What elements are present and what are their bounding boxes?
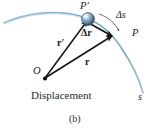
vector-r xyxy=(45,36,112,78)
label-point-p: P xyxy=(132,28,138,39)
particle-highlight xyxy=(83,15,87,18)
label-point-p-prime: P′ xyxy=(80,1,89,12)
label-arc-length-delta-s: Δs xyxy=(116,10,126,20)
label-vector-r: r xyxy=(85,57,89,67)
figure-label-b: (b) xyxy=(69,114,81,124)
origin-point-dot xyxy=(43,76,47,80)
label-vector-r-prime: r′ xyxy=(57,38,64,48)
displacement-diagram-figure: P′ Δs P Δr r′ r O s Displacement (b) xyxy=(0,0,159,137)
caption-displacement: Displacement xyxy=(31,90,91,101)
trajectory-curve-s xyxy=(4,13,143,93)
label-vector-delta-r: Δr xyxy=(81,28,92,38)
label-origin-o: O xyxy=(33,66,41,77)
particle-sphere xyxy=(82,13,95,26)
label-path-s: s xyxy=(138,92,142,102)
